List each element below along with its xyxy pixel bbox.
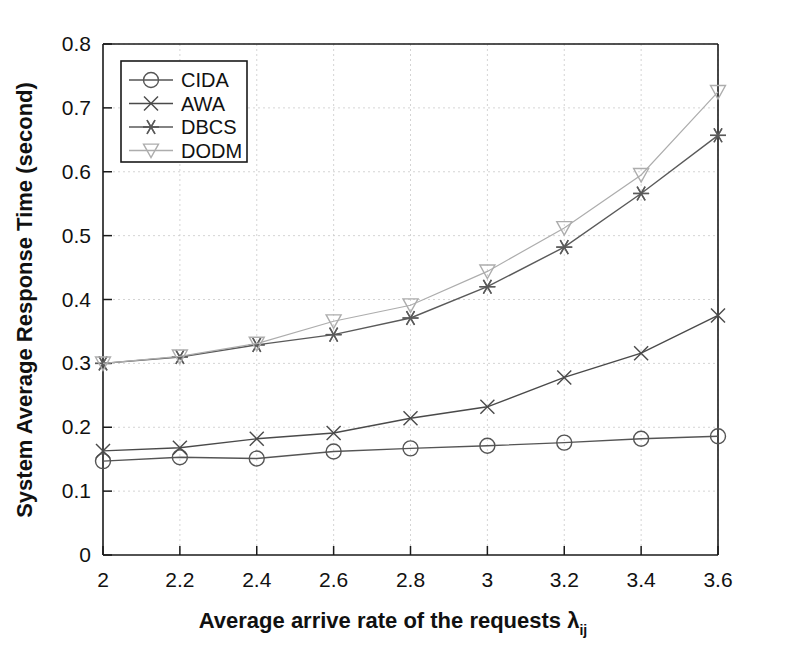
x-tick-label: 2.6 — [319, 568, 348, 591]
figure-background — [0, 0, 786, 654]
y-tick-label: 0.2 — [62, 415, 91, 438]
legend-label-dodm: DODM — [181, 140, 242, 162]
legend-label-dbcs: DBCS — [181, 116, 237, 138]
y-tick-label: 0.8 — [62, 32, 91, 55]
x-axis-title-subscript: ij — [579, 622, 587, 638]
x-tick-label: 3.6 — [703, 568, 732, 591]
y-tick-label: 0.7 — [62, 96, 91, 119]
chart-legend: CIDAAWADBCSDODM — [121, 61, 247, 162]
x-tick-label: 2.4 — [242, 568, 272, 591]
x-tick-label: 3 — [482, 568, 494, 591]
y-tick-label: 0.5 — [62, 224, 91, 247]
y-tick-label: 0 — [79, 543, 91, 566]
legend-label-awa: AWA — [181, 93, 226, 115]
y-tick-labels: 00.10.20.30.40.50.60.70.8 — [62, 32, 92, 566]
x-tick-labels: 22.22.42.62.833.23.43.6 — [97, 568, 732, 591]
legend-label-cida: CIDA — [181, 69, 229, 91]
x-tick-label: 3.2 — [550, 568, 579, 591]
y-tick-label: 0.6 — [62, 160, 91, 183]
y-axis-title-text: System Average Response Time (second) — [12, 82, 37, 518]
line-chart: 22.22.42.62.833.23.43.6 00.10.20.30.40.5… — [0, 0, 786, 654]
x-tick-label: 3.4 — [627, 568, 657, 591]
x-tick-label: 2.2 — [165, 568, 194, 591]
x-tick-label: 2 — [97, 568, 109, 591]
x-axis-title-main: Average arrive rate of the requests λ — [199, 608, 580, 633]
x-tick-label: 2.8 — [396, 568, 425, 591]
y-axis-title: System Average Response Time (second) — [12, 82, 37, 518]
y-tick-label: 0.4 — [62, 288, 92, 311]
y-tick-label: 0.3 — [62, 351, 91, 374]
chart-figure: 22.22.42.62.833.23.43.6 00.10.20.30.40.5… — [0, 0, 786, 654]
y-tick-label: 0.1 — [62, 479, 91, 502]
